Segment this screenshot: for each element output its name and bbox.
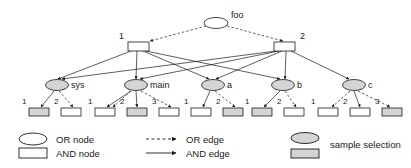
legend-sample-selection-ellipse: [291, 133, 319, 144]
and-edge-c-to-c-2: [354, 91, 360, 107]
or-edge-foo-to-and-2: [227, 26, 283, 41]
or-node-b[interactable]: [272, 80, 295, 91]
and-edge-and-1-to-main: [136, 51, 137, 79]
or-node-label-main: main: [150, 80, 170, 90]
or-node-label-foo: foo: [231, 10, 244, 20]
or-node-main[interactable]: [125, 80, 148, 91]
legend-or-edge-label: OR edge: [186, 134, 224, 145]
leaf-and-node-main-2[interactable]: [127, 108, 147, 116]
leaf-label-main-1: 1: [88, 97, 93, 106]
or-edge-sys-to-sys-2: [59, 91, 73, 107]
leaf-and-node-c-3[interactable]: [382, 108, 402, 116]
legend-or-node-shape: [19, 133, 47, 145]
or-edge-b-to-b-2: [285, 91, 296, 107]
or-node-label-sys: sys: [71, 80, 85, 90]
or-node-a[interactable]: [202, 80, 225, 91]
leaf-label-a-1: 1: [184, 97, 189, 106]
leaf-label-b-2: 2: [277, 97, 282, 106]
leaf-and-node-main-3[interactable]: [159, 108, 179, 116]
and-edge-and-2-to-b: [285, 51, 286, 79]
and-node-2[interactable]: [274, 42, 295, 51]
leaf-and-node-c-1[interactable]: [318, 108, 338, 116]
leaf-label-a-2: 2: [216, 97, 221, 106]
legend-layer: OR nodeAND nodeOR edgeAND edgesample sel…: [19, 133, 401, 159]
and-edge-and-2-to-a: [216, 51, 282, 79]
leaf-and-node-sys-2[interactable]: [61, 108, 81, 116]
leaf-label-main-2: 2: [120, 97, 125, 106]
and-edge-sys-to-sys-1: [41, 91, 54, 107]
leaf-label-sys-1: 1: [22, 97, 27, 106]
leaf-label-main-3: 3: [152, 97, 157, 106]
leaf-label-b-1: 1: [245, 97, 250, 106]
and-edge-a-to-a-1: [203, 91, 210, 107]
diagram-canvas: foo12sysmainabc121231212123 OR nodeAND n…: [0, 0, 411, 168]
legend-and-edge-label: AND edge: [186, 148, 230, 159]
leaf-and-node-main-1[interactable]: [95, 108, 115, 116]
leaf-label-c-3: 3: [375, 97, 380, 106]
and-node-1[interactable]: [128, 42, 149, 51]
leaf-and-node-c-2[interactable]: [350, 108, 370, 116]
or-edge-foo-to-and-1: [150, 26, 206, 41]
and-node-label-2: 2: [300, 31, 305, 41]
leaf-and-node-b-2[interactable]: [284, 108, 304, 116]
and-node-label-1: 1: [119, 31, 124, 41]
or-edges-layer: [59, 26, 390, 107]
leaf-and-node-a-1[interactable]: [191, 108, 211, 116]
and-edge-and-2-to-c: [291, 51, 349, 79]
and-edge-and-2-to-main: [140, 51, 279, 79]
leaf-and-node-a-2[interactable]: [223, 108, 243, 116]
legend-and-node-label: AND node: [56, 148, 100, 159]
leaf-label-c-1: 1: [311, 97, 316, 106]
legend-or-node-label: OR node: [56, 134, 94, 145]
and-edge-and-1-to-a: [143, 51, 209, 79]
or-node-c[interactable]: [343, 80, 366, 91]
legend-sample-selection-label: sample selection: [330, 139, 401, 150]
leaf-and-node-sys-1[interactable]: [29, 108, 49, 116]
leaf-label-c-2: 2: [343, 97, 348, 106]
or-edge-c-to-c-3: [358, 91, 390, 107]
or-node-sys[interactable]: [46, 80, 69, 91]
and-or-graph: foo12sysmainabc121231212123 OR nodeAND n…: [0, 0, 411, 168]
legend-sample-selection-rect: [291, 149, 319, 158]
or-node-label-c: c: [368, 80, 373, 90]
and-edge-main-to-main-2: [136, 91, 137, 107]
leaf-label-sys-2: 2: [54, 97, 59, 106]
leaf-and-node-b-1[interactable]: [252, 108, 272, 116]
legend-and-node-shape: [19, 148, 47, 158]
nodes-layer: foo12sysmainabc121231212123: [22, 10, 402, 116]
and-edge-main-to-main-1: [107, 91, 131, 107]
or-node-label-a: a: [227, 80, 232, 90]
or-node-label-b: b: [297, 80, 302, 90]
or-node-foo[interactable]: [204, 18, 228, 29]
